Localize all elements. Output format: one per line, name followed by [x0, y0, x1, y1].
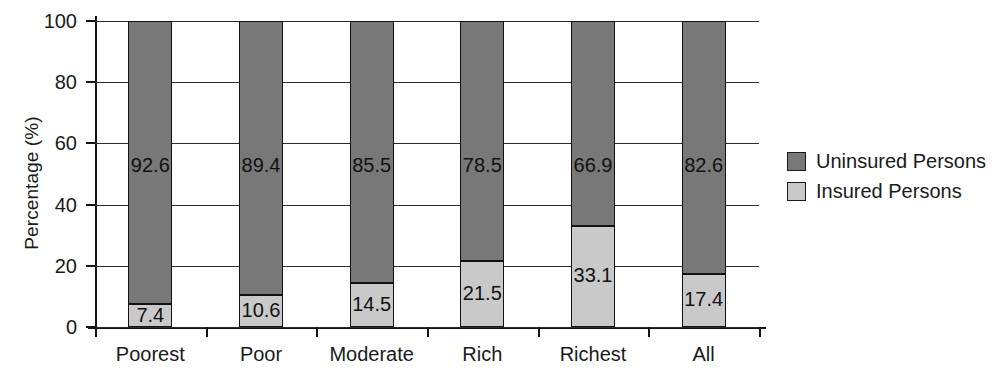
bar-value-label: 7.4 — [136, 305, 164, 325]
bar-segment-uninsured[interactable]: 78.5 — [460, 21, 504, 261]
bar-value-label: 17.4 — [684, 289, 723, 309]
bar-segment-insured[interactable]: 10.6 — [239, 295, 283, 327]
stacked-bar[interactable]: 78.521.5 — [460, 21, 504, 327]
legend-swatch-icon — [787, 182, 806, 201]
y-axis-tick-label: 80 — [0, 72, 77, 92]
x-axis-tick — [759, 327, 761, 337]
bar-segment-uninsured[interactable]: 92.6 — [128, 21, 172, 304]
y-axis-tick-label: 60 — [0, 133, 77, 153]
x-axis-tick — [538, 327, 540, 337]
legend-item[interactable]: Uninsured Persons — [787, 146, 986, 176]
bar-value-label: 33.1 — [574, 265, 613, 285]
bar-value-label: 82.6 — [683, 155, 725, 175]
chart-legend: Uninsured PersonsInsured Persons — [787, 146, 986, 206]
bar-segment-uninsured[interactable]: 66.9 — [571, 21, 615, 226]
x-axis-tick — [427, 327, 429, 337]
bar-segment-insured[interactable]: 17.4 — [682, 274, 726, 327]
bar-segment-insured[interactable]: 14.5 — [350, 283, 394, 327]
stacked-bar[interactable]: 66.933.1 — [571, 21, 615, 327]
y-axis-tick — [86, 326, 95, 328]
x-axis-tick — [95, 327, 97, 337]
bar-segment-insured[interactable]: 21.5 — [460, 261, 504, 327]
y-axis-tick-label: 40 — [0, 195, 77, 215]
bar-value-label: 10.6 — [242, 300, 281, 320]
y-axis-tick-label: 0 — [0, 317, 77, 337]
stacked-bar[interactable]: 82.617.4 — [682, 21, 726, 327]
gridline — [95, 143, 759, 144]
y-axis-tick — [86, 204, 95, 206]
y-axis-tick — [86, 265, 95, 267]
x-axis-tick — [206, 327, 208, 337]
x-axis-tick — [648, 327, 650, 337]
y-axis-tick — [86, 142, 95, 144]
bar-value-label: 92.6 — [129, 155, 171, 175]
bar-segment-uninsured[interactable]: 85.5 — [350, 21, 394, 283]
legend-label: Uninsured Persons — [816, 150, 986, 173]
bar-value-label: 89.4 — [240, 155, 282, 175]
bar-value-label: 21.5 — [463, 283, 502, 303]
bar-segment-insured[interactable]: 7.4 — [128, 304, 172, 327]
legend-swatch-icon — [787, 152, 806, 171]
bar-segment-uninsured[interactable]: 89.4 — [239, 21, 283, 295]
bar-value-label: 85.5 — [351, 155, 393, 175]
y-axis-tick-label: 100 — [0, 11, 77, 31]
bar-value-label: 78.5 — [461, 155, 503, 175]
x-axis-label-all: All — [624, 343, 784, 366]
x-axis-tick — [316, 327, 318, 337]
legend-label: Insured Persons — [816, 180, 962, 203]
bar-segment-insured[interactable]: 33.1 — [571, 226, 615, 327]
stacked-bar[interactable]: 89.410.6 — [239, 21, 283, 327]
bar-value-label: 66.9 — [572, 155, 614, 175]
y-axis-tick-label: 20 — [0, 256, 77, 276]
gridline — [95, 82, 759, 83]
gridline — [95, 266, 759, 267]
chart-canvas: Percentage (%) 020406080100 PoorestPoorM… — [0, 0, 1005, 382]
stacked-bar[interactable]: 85.514.5 — [350, 21, 394, 327]
y-axis-tick — [86, 81, 95, 83]
bar-value-label: 14.5 — [352, 294, 391, 314]
gridline — [95, 205, 759, 206]
stacked-bar[interactable]: 92.67.4 — [128, 21, 172, 327]
plot-area: 020406080100 — [95, 21, 759, 327]
gridline — [95, 21, 759, 22]
bar-segment-uninsured[interactable]: 82.6 — [682, 21, 726, 274]
legend-item[interactable]: Insured Persons — [787, 176, 986, 206]
y-axis-tick — [86, 20, 95, 22]
